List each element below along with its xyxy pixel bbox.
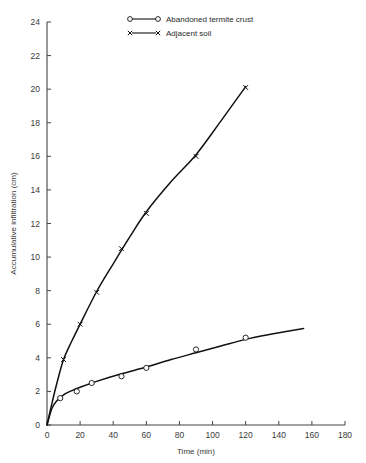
x-tick-label: 20 xyxy=(75,430,85,440)
x-tick-label: 80 xyxy=(175,430,185,440)
data-point-open-circle xyxy=(144,365,149,370)
x-tick-label: 120 xyxy=(239,430,253,440)
x-tick-label: 60 xyxy=(142,430,152,440)
x-tick-label: 180 xyxy=(338,430,352,440)
data-point-open-circle xyxy=(89,380,94,385)
y-tick-label: 12 xyxy=(31,219,41,229)
y-tick-label: 14 xyxy=(31,185,41,195)
y-tick-label: 22 xyxy=(31,51,41,61)
infiltration-chart-figure: 0204060801001201401601800246810121416182… xyxy=(0,0,366,463)
data-point-open-circle xyxy=(243,335,248,340)
series-line-1 xyxy=(47,87,246,425)
y-tick-label: 20 xyxy=(31,84,41,94)
y-tick-label: 0 xyxy=(35,420,40,430)
y-tick-label: 8 xyxy=(35,286,40,296)
x-tick-label: 40 xyxy=(108,430,118,440)
legend-marker-open-circle xyxy=(128,17,133,22)
x-tick-label: 100 xyxy=(205,430,219,440)
y-tick-label: 24 xyxy=(31,17,41,27)
y-tick-label: 10 xyxy=(31,252,41,262)
y-axis-title: Accumulative infiltration (cm) xyxy=(9,172,18,275)
chart-canvas: 0204060801001201401601800246810121416182… xyxy=(0,0,366,463)
y-tick-label: 6 xyxy=(35,319,40,329)
legend-label-0: Abandoned termite crust xyxy=(166,15,254,24)
x-tick-label: 160 xyxy=(305,430,319,440)
y-tick-label: 16 xyxy=(31,151,41,161)
data-point-open-circle xyxy=(74,389,79,394)
data-point-open-circle xyxy=(119,374,124,379)
data-point-open-circle xyxy=(58,396,63,401)
legend-marker-open-circle xyxy=(156,17,161,22)
y-tick-label: 4 xyxy=(35,353,40,363)
series-line-0 xyxy=(47,328,304,425)
y-tick-label: 2 xyxy=(35,386,40,396)
x-axis-title: Time (min) xyxy=(177,447,215,456)
y-tick-label: 18 xyxy=(31,118,41,128)
x-tick-label: 140 xyxy=(272,430,286,440)
legend-label-1: Adjacent soil xyxy=(166,29,212,38)
x-tick-label: 0 xyxy=(45,430,50,440)
data-point-open-circle xyxy=(193,347,198,352)
